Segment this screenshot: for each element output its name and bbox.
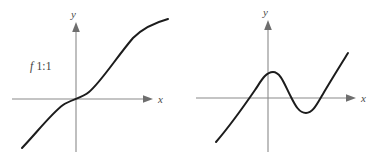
panel-one-to-one: x y f1:1: [0, 0, 189, 165]
right-y-axis-arrowhead: [264, 20, 272, 30]
panel-not-one-to-one: x y fnot 1:1: [189, 0, 378, 165]
right-plot-svg: x y: [189, 0, 378, 165]
right-x-axis-arrowhead: [346, 94, 356, 102]
caption-one-to-one: f1:1: [30, 60, 52, 72]
one-to-one-function-figure: x y f1:1 x y fnot 1:1: [0, 0, 378, 165]
left-x-axis-arrowhead: [143, 95, 153, 103]
right-x-axis-label: x: [360, 92, 366, 104]
left-increasing-curve: [22, 19, 168, 148]
right-y-axis-label: y: [262, 6, 268, 18]
left-plot-svg: x y: [0, 0, 189, 165]
caption-text: 1:1: [36, 60, 51, 72]
left-y-axis-label: y: [70, 8, 76, 20]
left-y-axis-arrowhead: [72, 22, 80, 32]
left-x-axis-label: x: [157, 93, 163, 105]
